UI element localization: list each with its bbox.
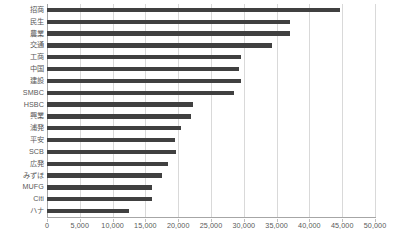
category-label: 民生 bbox=[0, 18, 44, 26]
bar-row bbox=[47, 75, 375, 87]
bar bbox=[47, 173, 162, 177]
category-label: 中国 bbox=[0, 65, 44, 73]
category-label: SCB bbox=[0, 148, 44, 156]
value-tick-label: 5,000 bbox=[71, 221, 90, 230]
plot-area bbox=[47, 4, 375, 217]
category-label: HSBC bbox=[0, 101, 44, 109]
bar-row bbox=[47, 87, 375, 99]
bar-row bbox=[47, 4, 375, 16]
value-tick-label: 35,000 bbox=[265, 221, 288, 230]
bar bbox=[47, 102, 193, 106]
bar-row bbox=[47, 28, 375, 40]
bar bbox=[47, 20, 290, 24]
category-label: 農業 bbox=[0, 30, 44, 38]
bar bbox=[47, 43, 272, 47]
bar bbox=[47, 126, 181, 130]
bar-row bbox=[47, 205, 375, 217]
bar bbox=[47, 91, 234, 95]
bar bbox=[47, 197, 152, 201]
category-label: MUFG bbox=[0, 183, 44, 191]
value-tick-label: 45,000 bbox=[331, 221, 354, 230]
bar bbox=[47, 209, 129, 213]
bar bbox=[47, 55, 241, 59]
category-label: ハナ bbox=[0, 207, 44, 215]
category-label: 広発 bbox=[0, 160, 44, 168]
value-tick-label: 0 bbox=[45, 221, 49, 230]
category-axis: 招商民生農業交通工商中国建設SMBCHSBC興業浦発平安SCB広発みずほMUFG… bbox=[0, 4, 44, 217]
value-axis: 05,00010,00015,00020,00025,00030,00035,0… bbox=[0, 219, 395, 239]
value-tick-label: 50,000 bbox=[364, 221, 387, 230]
gridline-50000 bbox=[375, 4, 376, 217]
value-tick-label: 30,000 bbox=[233, 221, 256, 230]
bar bbox=[47, 162, 168, 166]
bar bbox=[47, 185, 152, 189]
value-tick-label: 25,000 bbox=[200, 221, 223, 230]
bar-row bbox=[47, 146, 375, 158]
bar bbox=[47, 114, 191, 118]
bar bbox=[47, 67, 239, 71]
bar-row bbox=[47, 111, 375, 123]
bar-row bbox=[47, 158, 375, 170]
bar-row bbox=[47, 99, 375, 111]
category-label: Citi bbox=[0, 195, 44, 203]
value-tick-label: 40,000 bbox=[298, 221, 321, 230]
category-label: 工商 bbox=[0, 53, 44, 61]
bar-row bbox=[47, 134, 375, 146]
bar-chart: 招商民生農業交通工商中国建設SMBCHSBC興業浦発平安SCB広発みずほMUFG… bbox=[0, 0, 395, 242]
bar-row bbox=[47, 63, 375, 75]
value-tick-label: 15,000 bbox=[134, 221, 157, 230]
bar-row bbox=[47, 170, 375, 182]
category-label: みずほ bbox=[0, 172, 44, 180]
bar-row bbox=[47, 182, 375, 194]
bar bbox=[47, 150, 176, 154]
category-label: 平安 bbox=[0, 136, 44, 144]
bar bbox=[47, 8, 340, 12]
bar-row bbox=[47, 51, 375, 63]
category-label: 浦発 bbox=[0, 124, 44, 132]
value-axis-baseline bbox=[47, 217, 376, 218]
bar bbox=[47, 31, 290, 35]
value-tick-label: 10,000 bbox=[101, 221, 124, 230]
category-label: 招商 bbox=[0, 6, 44, 14]
category-label: SMBC bbox=[0, 89, 44, 97]
bar-row bbox=[47, 40, 375, 52]
bar bbox=[47, 79, 241, 83]
bar-row bbox=[47, 193, 375, 205]
bar bbox=[47, 138, 175, 142]
category-label: 建設 bbox=[0, 77, 44, 85]
category-label: 交通 bbox=[0, 41, 44, 49]
value-tick-label: 20,000 bbox=[167, 221, 190, 230]
bar-row bbox=[47, 16, 375, 28]
bar-row bbox=[47, 122, 375, 134]
category-label: 興業 bbox=[0, 112, 44, 120]
